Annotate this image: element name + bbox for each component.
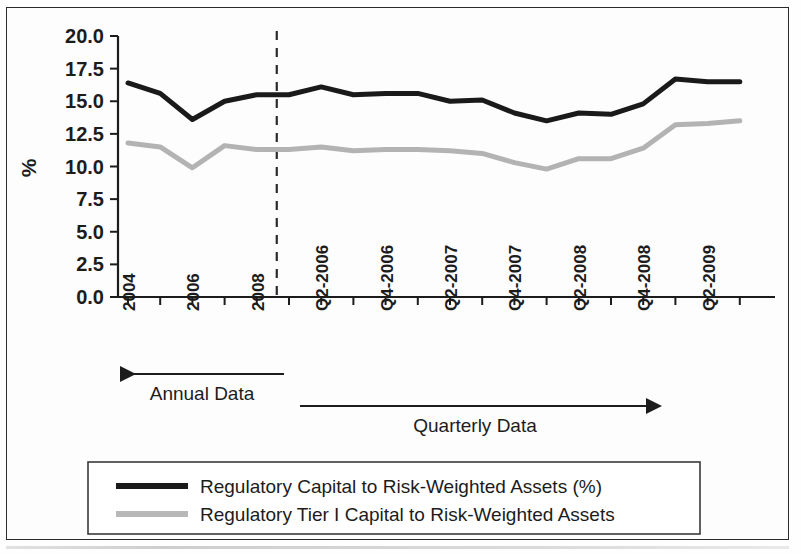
x-tick-label: Q4-2008	[635, 245, 654, 311]
legend-label-1: Regulatory Tier I Capital to Risk-Weight…	[200, 504, 615, 525]
data-period-bands: Annual DataQuarterly Data	[120, 374, 650, 436]
y-axis-title: %	[17, 158, 40, 177]
x-tick-label: 2006	[184, 273, 203, 311]
y-tick-label: 12.5	[65, 123, 104, 145]
y-tick-label: 15.0	[65, 90, 104, 112]
chart-legend: Regulatory Capital to Risk-Weighted Asse…	[88, 462, 700, 534]
x-tick-label: Q2-2008	[571, 245, 590, 311]
x-tick-label: Q2-2006	[313, 245, 332, 311]
chart-figure: 0.02.55.07.510.012.515.017.520.0 2004200…	[0, 0, 801, 554]
x-tick-label: 2004	[120, 273, 139, 311]
chart-series-group	[128, 79, 740, 169]
series-line-1	[128, 121, 740, 169]
y-tick-label: 17.5	[65, 58, 104, 80]
x-tick-label: Q2-2007	[442, 245, 461, 311]
line-chart-svg: 0.02.55.07.510.012.515.017.520.0 2004200…	[0, 0, 801, 554]
x-tick-label: Q4-2007	[506, 245, 525, 311]
band-label-0: Annual Data	[150, 383, 255, 404]
y-tick-label: 20.0	[65, 25, 104, 47]
legend-label-0: Regulatory Capital to Risk-Weighted Asse…	[200, 476, 602, 497]
series-line-0	[128, 79, 740, 121]
x-tick-label: Q2-2009	[700, 245, 719, 311]
y-tick-label: 5.0	[76, 221, 104, 243]
y-axis-tick-labels: 0.02.55.07.510.012.515.017.520.0	[65, 25, 104, 308]
y-tick-label: 0.0	[76, 286, 104, 308]
x-tick-label: 2008	[249, 273, 268, 311]
x-tick-label: Q4-2006	[378, 245, 397, 311]
y-tick-label: 2.5	[76, 253, 104, 275]
y-tick-label: 7.5	[76, 188, 104, 210]
x-axis-tick-labels: 200420062008Q2-2006Q4-2006Q2-2007Q4-2007…	[120, 245, 719, 311]
y-tick-label: 10.0	[65, 156, 104, 178]
y-axis-title-text: %	[17, 158, 40, 177]
band-label-1: Quarterly Data	[413, 415, 537, 436]
